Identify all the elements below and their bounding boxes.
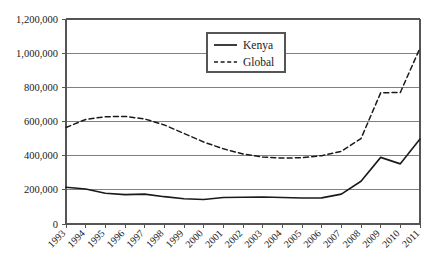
- x-tick-label: 1999: [163, 228, 185, 250]
- x-tick-label: 1994: [65, 228, 87, 250]
- x-tick-label: 1998: [144, 228, 166, 250]
- line-chart: 0200,000400,000600,000800,0001,000,0001,…: [0, 0, 436, 270]
- x-tick-label: 2000: [183, 228, 205, 250]
- series-line-kenya: [66, 139, 420, 199]
- x-tick-label: 1997: [124, 228, 146, 250]
- x-tick-label: 1995: [85, 228, 107, 250]
- y-tick-label: 800,000: [24, 82, 58, 93]
- y-tick-label: 400,000: [24, 150, 58, 161]
- x-tick-label: 2008: [340, 228, 362, 250]
- y-tick-label: 1,000,000: [16, 48, 58, 59]
- x-tick-label: 2002: [222, 228, 244, 250]
- x-axis-labels: 1993199419951996199719981999200020012002…: [45, 228, 421, 250]
- x-tick-label: 2009: [360, 228, 382, 250]
- y-axis-labels: 0200,000400,000600,000800,0001,000,0001,…: [16, 14, 58, 230]
- x-tick-label: 1993: [45, 228, 67, 250]
- y-tick-label: 1,200,000: [16, 14, 58, 25]
- y-tick-label: 600,000: [24, 116, 58, 127]
- x-tick-label: 2006: [301, 228, 323, 250]
- x-tick-label: 2011: [400, 228, 422, 250]
- x-tick-label: 2004: [262, 228, 284, 250]
- legend-label-kenya: Kenya: [243, 39, 273, 52]
- x-tick-label: 2003: [242, 228, 264, 250]
- legend-label-global: Global: [243, 56, 274, 68]
- y-tick-label: 0: [53, 219, 58, 230]
- chart-canvas: 0200,000400,000600,000800,0001,000,0001,…: [0, 0, 436, 270]
- x-tick-label: 1996: [104, 228, 126, 250]
- x-tick-label: 2007: [321, 228, 343, 250]
- chart-legend: KenyaGlobal: [207, 33, 285, 72]
- x-tick-label: 2005: [281, 228, 303, 250]
- y-tick-label: 200,000: [24, 184, 58, 195]
- x-tick-label: 2010: [380, 228, 402, 250]
- x-tick-label: 2001: [203, 228, 225, 250]
